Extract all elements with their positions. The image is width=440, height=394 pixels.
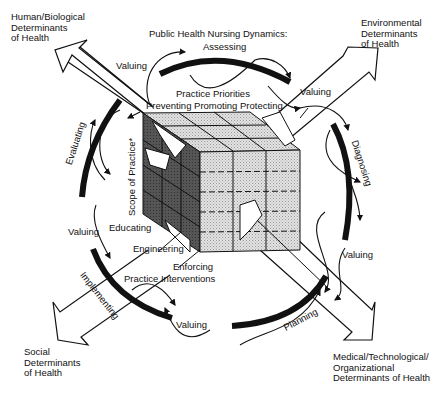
label-valuing-top-right: Valuing [300, 87, 331, 98]
label-line: of Health [24, 368, 81, 379]
label-engineering: Engineering [133, 244, 184, 255]
cube [143, 112, 300, 252]
diagram-canvas [0, 0, 440, 394]
label-valuing-bottom: Valuing [176, 320, 207, 331]
label-educating: Educating [109, 223, 151, 234]
label-line: of Health [11, 33, 85, 44]
label-line: Determinants of Health [333, 373, 430, 384]
label-line: Medical/Technological/ [333, 352, 430, 363]
label-priorities-row: Preventing Promoting Protecting [146, 101, 283, 112]
label-line: Human/Biological [11, 12, 85, 23]
label-line: Environmental [361, 18, 422, 29]
arc-diagnosing [333, 124, 349, 240]
arc-evaluating [82, 100, 120, 197]
diagram-title: Public Health Nursing Dynamics: [149, 29, 287, 40]
label-valuing-top-left: Valuing [116, 61, 147, 72]
label-practice-priorities: Practice Priorities [176, 89, 250, 100]
arrow-social [53, 250, 170, 345]
determinant-environmental: Environmental Determinants of Health [361, 18, 422, 50]
label-practice-interventions: Practice Interventions [124, 274, 215, 285]
label-line: of Health [361, 39, 422, 50]
determinant-medical: Medical/Technological/ Organizational De… [333, 352, 430, 384]
arc-assessing [160, 61, 290, 82]
arrow-human-biological [55, 40, 153, 115]
label-assessing: Assessing [203, 42, 246, 53]
label-enforcing: Enforcing [173, 262, 213, 273]
label-valuing-left: Valuing [68, 227, 99, 238]
label-valuing-right: Valuing [342, 250, 373, 261]
label-line: Social [24, 347, 81, 358]
label-scope-of-practice: Scope of Practice* [127, 138, 138, 216]
determinant-social: Social Determinants of Health [24, 347, 81, 379]
cube-front-face [200, 150, 300, 252]
determinant-human-biological: Human/Biological Determinants of Health [11, 12, 85, 44]
